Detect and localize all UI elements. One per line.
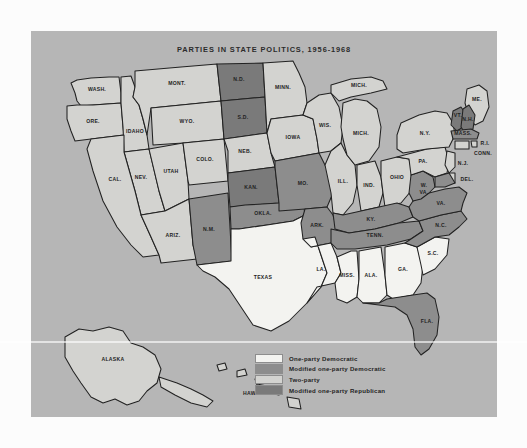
legend-swatch-modified-one-party-democratic — [255, 364, 283, 373]
state-label-ala: ALA. — [364, 272, 377, 278]
state-label-n-j: N.J. — [458, 160, 469, 166]
state-label-fla: FLA. — [421, 318, 434, 324]
state-label-pa: PA. — [418, 158, 427, 164]
state-label-idaho: IDAHO — [126, 128, 144, 134]
state-label-kan: KAN. — [244, 184, 258, 190]
page-root: PARTIES IN STATE POLITICS, 1956-1968 WAS… — [0, 0, 527, 448]
state-label-wis: WIS. — [319, 122, 332, 128]
state-label-w-va: VA. — [419, 189, 428, 195]
state-label-nev: NEV. — [135, 174, 148, 180]
legend-item: Modified one-party Democratic — [255, 364, 435, 375]
legend: One-party Democratic Modified one-party … — [255, 353, 435, 395]
legend-swatch-two-party — [255, 375, 283, 384]
state-n-d — [217, 63, 265, 101]
legend-label-one-party-democratic: One-party Democratic — [289, 355, 358, 362]
state-label-la: LA. — [316, 266, 325, 272]
state-label-ohio: OHIO — [390, 174, 404, 180]
state-ohio — [381, 157, 413, 207]
state-label-vt: VT. — [454, 112, 463, 118]
state-mich-u — [331, 77, 387, 101]
state-alaska-islands — [159, 377, 213, 407]
legend-label-two-party: Two-party — [289, 376, 320, 383]
state-label-n-c: N.C. — [435, 222, 447, 228]
state-label-del: DEL. — [461, 176, 474, 182]
state-label-wash: WASH. — [88, 86, 106, 92]
state-label-colo: COLO. — [196, 156, 214, 162]
legend-swatch-one-party-democratic — [255, 354, 283, 363]
legend-label-modified-one-party-democratic: Modified one-party Democratic — [289, 365, 386, 372]
state-label-n-h: N.H. — [462, 116, 474, 122]
state-label-mich-u: MICH. — [351, 82, 367, 88]
state-label-s-d: S.D. — [237, 114, 248, 120]
state-label-n-y: N.Y. — [420, 130, 431, 136]
state-label-utah: UTAH — [164, 168, 179, 174]
legend-item: Modified one-party Republican — [255, 385, 435, 396]
legend-swatch-modified-one-party-republican — [255, 385, 283, 394]
state-label-ark: ARK. — [310, 222, 324, 228]
state-label-ind: IND. — [363, 182, 375, 188]
state-label-n-d: N.D. — [233, 76, 245, 82]
state-label-mo: MO. — [298, 180, 309, 186]
state-label-tenn: TENN. — [367, 232, 384, 238]
state-label-okla: OKLA. — [254, 210, 272, 216]
state-label-n-m: N.M. — [203, 226, 215, 232]
state-label-va: VA. — [436, 200, 445, 206]
state-label-ore: ORE. — [86, 118, 100, 124]
state-label-ariz: ARIZ. — [166, 232, 181, 238]
state-label-ga: GA. — [398, 266, 408, 272]
state-label-wyo: WYO. — [180, 118, 195, 124]
legend-item: One-party Democratic — [255, 353, 435, 364]
legend-item: Two-party — [255, 374, 435, 385]
state-label-cal: CAL. — [108, 176, 121, 182]
state-label-mich: MICH. — [353, 130, 369, 136]
state-label-neb: NEB. — [238, 148, 252, 154]
state-label-alaska: ALASKA — [101, 356, 124, 362]
state-alaska — [65, 327, 161, 405]
state-label-ill: ILL. — [338, 178, 349, 184]
state-label-iowa: IOWA — [286, 134, 301, 140]
legend-label-modified-one-party-republican: Modified one-party Republican — [289, 387, 385, 394]
state-label-me: ME. — [472, 96, 482, 102]
state-label-mass: MASS. — [454, 130, 472, 136]
state-label-texas: TEXAS — [254, 274, 273, 280]
state-label-minn: MINN. — [275, 84, 291, 90]
state-label-conn: CONN. — [474, 150, 492, 156]
state-label-s-c: S.C. — [427, 250, 438, 256]
state-label-miss: MISS. — [339, 272, 355, 278]
state-label-r-i: R.I. — [480, 140, 489, 146]
state-label-mont: MONT. — [168, 80, 186, 86]
state-label-ky: KY. — [367, 216, 376, 222]
state-r-i — [471, 141, 477, 147]
map-panel: PARTIES IN STATE POLITICS, 1956-1968 WAS… — [31, 31, 497, 417]
state-conn — [455, 141, 469, 149]
state-label-w-va: W. — [421, 182, 428, 188]
state-colo — [183, 139, 228, 185]
